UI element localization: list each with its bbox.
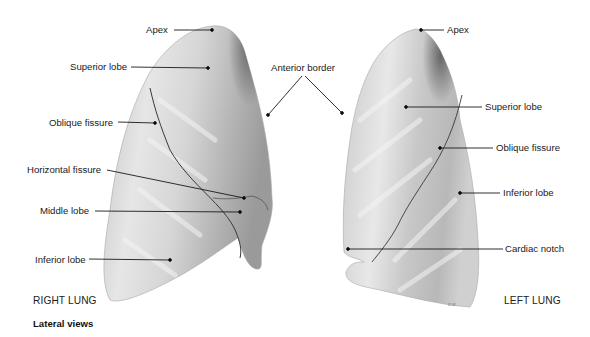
label-left-inferior-lobe: Inferior lobe [503, 187, 554, 198]
artist-signature: D.M. [448, 302, 456, 307]
lateral-views-lung-figure: Apex Superior lobe Oblique fissure Horiz… [0, 0, 590, 337]
label-left-cardiac-notch: Cardiac notch [505, 243, 564, 254]
left-lung-title: LEFT LUNG [504, 295, 561, 306]
label-anterior-border: Anterior border [271, 62, 335, 73]
label-right-middle-lobe: Middle lobe [40, 205, 89, 216]
label-left-superior-lobe: Superior lobe [485, 101, 542, 112]
label-left-oblique-fissure: Oblique fissure [496, 142, 560, 153]
label-left-apex: Apex [447, 24, 469, 35]
right-lung-title: RIGHT LUNG [33, 295, 97, 306]
left-lung-body [343, 29, 478, 307]
label-right-oblique-fissure: Oblique fissure [49, 117, 113, 128]
label-right-apex: Apex [146, 24, 168, 35]
label-right-superior-lobe: Superior lobe [70, 61, 127, 72]
label-right-horizontal-fissure: Horizontal fissure [27, 164, 101, 175]
left-lung [343, 29, 478, 307]
figure-caption: Lateral views [33, 318, 93, 329]
label-right-inferior-lobe: Inferior lobe [35, 254, 86, 265]
